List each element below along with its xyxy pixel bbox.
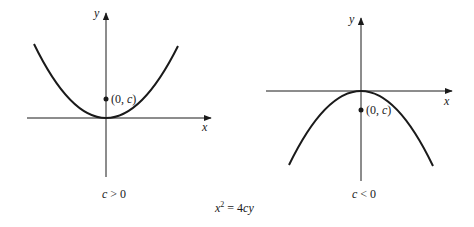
caption: c < 0 [352, 187, 376, 201]
point-label: (0, c) [111, 92, 136, 106]
panel-right: (0, c) x y c < 0 [266, 12, 452, 201]
focus-point [359, 108, 364, 113]
parabola-figure: (0, c) x y c > 0 (0, c) x y c < 0 x2 = 4… [0, 0, 474, 227]
focus-point [104, 97, 109, 102]
x-axis-label: x [201, 120, 208, 134]
point-label: (0, c) [366, 103, 391, 117]
equation: x2 = 4cy [214, 200, 254, 215]
x-axis-label: x [443, 94, 450, 108]
panel-left: (0, c) x y c > 0 [27, 6, 211, 201]
y-axis-label: y [348, 12, 355, 26]
y-axis-label: y [93, 6, 100, 20]
caption: c > 0 [102, 187, 126, 201]
